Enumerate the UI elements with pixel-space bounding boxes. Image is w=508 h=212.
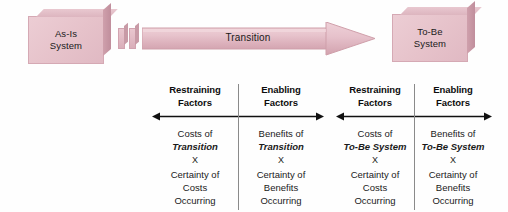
header-line1: Restraining [349, 84, 401, 95]
header-enabling-factors-transition: Enabling Factors [238, 84, 324, 111]
header-line2: Factors [264, 97, 298, 108]
to-be-system-label-line1: To-Be [417, 26, 442, 38]
line-multiply: X [278, 155, 284, 165]
header-line2: Factors [436, 97, 470, 108]
to-be-system-label-line2: System [414, 38, 446, 50]
line-subject: Transition [258, 141, 304, 152]
transition-factors-table: Restraining Factors Enabling Factors Cos… [152, 84, 324, 210]
arrow-shaft-and-head [142, 22, 376, 56]
line-subject: Transition [172, 141, 218, 152]
to-be-system-factors-table: Restraining Factors Enabling Factors Cos… [336, 84, 492, 210]
line-certainty-of: Certainty of [171, 169, 220, 180]
header-line1: Restraining [169, 84, 221, 95]
cell-enabling-to-be: Benefits of To-Be System X Certainty of … [414, 122, 492, 210]
header-line2: Factors [178, 97, 212, 108]
header-restraining-factors-transition: Restraining Factors [152, 84, 238, 111]
line-certainty-of: Certainty of [257, 169, 306, 180]
cell-restraining-to-be: Costs of To-Be System X Certainty of Cos… [336, 122, 414, 210]
arrow-dash-segment-1 [118, 28, 125, 49]
line-multiply: X [372, 155, 378, 165]
transition-column-divider [238, 84, 239, 210]
line-occurring: Occurring [260, 195, 301, 206]
line-subject: To-Be System [344, 141, 407, 152]
flow-diagram-row: As-Is System [0, 0, 508, 78]
header-restraining-factors-to-be: Restraining Factors [336, 84, 414, 111]
line-occurring: Occurring [174, 195, 215, 206]
header-enabling-factors-to-be: Enabling Factors [414, 84, 492, 111]
line-quantity: Costs [183, 182, 207, 193]
line-costs-of: Costs of [178, 128, 213, 139]
as-is-system-box: As-Is System [28, 16, 104, 64]
cell-enabling-transition: Benefits of Transition X Certainty of Be… [238, 122, 324, 210]
as-is-system-label-line2: System [50, 40, 82, 52]
line-multiply: X [192, 155, 198, 165]
header-line2: Factors [358, 97, 392, 108]
line-multiply: X [450, 155, 456, 165]
line-quantity: Benefits [264, 182, 298, 193]
header-line1: Enabling [433, 84, 473, 95]
cell-restraining-transition: Costs of Transition X Certainty of Costs… [152, 122, 238, 210]
transition-arrow: Transition [118, 22, 376, 56]
line-occurring: Occurring [432, 195, 473, 206]
line-certainty-of: Certainty of [429, 169, 478, 180]
line-certainty-of: Certainty of [351, 169, 400, 180]
arrow-dash-segment-2 [129, 28, 136, 49]
header-line1: Enabling [261, 84, 301, 95]
line-quantity: Costs [363, 182, 387, 193]
line-occurring: Occurring [354, 195, 395, 206]
line-quantity: Benefits [436, 182, 470, 193]
line-benefits-of: Benefits of [259, 128, 304, 139]
as-is-system-label-line1: As-Is [55, 28, 77, 40]
line-subject: To-Be System [422, 141, 485, 152]
line-benefits-of: Benefits of [431, 128, 476, 139]
to-be-column-divider [414, 84, 415, 210]
line-costs-of: Costs of [358, 128, 393, 139]
to-be-system-box: To-Be System [392, 14, 468, 62]
